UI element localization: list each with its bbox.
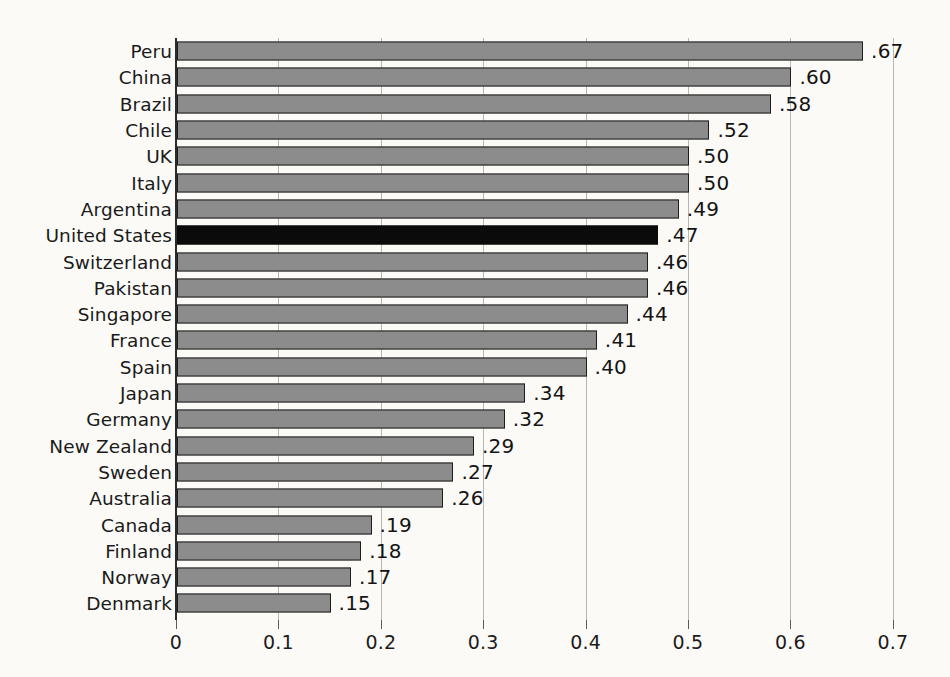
category-label: Sweden xyxy=(98,461,172,482)
bar-value-label: .58 xyxy=(779,92,811,116)
bar xyxy=(177,94,771,113)
bar-value-label: .29 xyxy=(482,434,514,458)
x-axis-tick xyxy=(893,620,894,629)
plot-area: 00.10.20.30.40.50.60.7Peru.67China.60Bra… xyxy=(0,0,950,677)
category-label: Japan xyxy=(120,383,172,404)
bar-value-label: .46 xyxy=(656,276,688,300)
bar-row: UK.50 xyxy=(0,143,950,169)
bar-row: Spain.40 xyxy=(0,354,950,380)
category-label: United States xyxy=(45,225,172,246)
bar xyxy=(177,331,597,350)
x-axis-tick-label: 0.2 xyxy=(365,631,396,653)
bar-row: China.60 xyxy=(0,64,950,90)
x-axis-tick xyxy=(483,620,484,629)
bar xyxy=(177,68,791,87)
bar-row: Norway.17 xyxy=(0,564,950,590)
bar-value-label: .19 xyxy=(380,513,412,537)
bar xyxy=(177,357,587,376)
bar-row: Germany.32 xyxy=(0,406,950,432)
bar xyxy=(177,173,689,192)
bar-value-label: .46 xyxy=(656,250,688,274)
bar-value-label: .67 xyxy=(871,39,903,63)
bar-row: Denmark.15 xyxy=(0,590,950,616)
bar-value-label: .60 xyxy=(799,65,831,89)
bar-value-label: .17 xyxy=(359,565,391,589)
bar-value-label: .26 xyxy=(451,486,483,510)
bar-row: Switzerland.46 xyxy=(0,248,950,274)
category-label: UK xyxy=(146,146,172,167)
x-axis-tick xyxy=(176,620,177,629)
category-label: Finland xyxy=(105,540,172,561)
bar-highlighted xyxy=(177,226,658,245)
bar-row: Canada.19 xyxy=(0,511,950,537)
category-label: Denmark xyxy=(86,593,172,614)
category-label: France xyxy=(110,330,172,351)
x-axis-tick xyxy=(586,620,587,629)
bar-value-label: .44 xyxy=(636,302,668,326)
category-label: Peru xyxy=(130,41,172,62)
x-axis-tick-label: 0.4 xyxy=(570,631,601,653)
bar xyxy=(177,121,709,140)
bar xyxy=(177,384,525,403)
bar-row: Sweden.27 xyxy=(0,459,950,485)
category-label: Singapore xyxy=(78,304,172,325)
bar xyxy=(177,199,679,218)
category-label: China xyxy=(119,67,172,88)
x-axis-tick-label: 0.5 xyxy=(673,631,704,653)
x-axis-tick-label: 0 xyxy=(170,631,182,653)
bar xyxy=(177,410,505,429)
bar xyxy=(177,594,331,613)
bar xyxy=(177,436,474,455)
bar xyxy=(177,541,361,560)
bar-value-label: .50 xyxy=(697,171,729,195)
bar-value-label: .49 xyxy=(687,197,719,221)
bar xyxy=(177,147,689,166)
category-label: Norway xyxy=(101,567,172,588)
bar-chart-figure: 00.10.20.30.40.50.60.7Peru.67China.60Bra… xyxy=(0,0,950,677)
bar xyxy=(177,42,863,61)
category-label: Canada xyxy=(101,514,172,535)
bar-row: Argentina.49 xyxy=(0,196,950,222)
x-axis-tick-label: 0.6 xyxy=(775,631,806,653)
bar-value-label: .32 xyxy=(513,407,545,431)
bar xyxy=(177,568,351,587)
bar-row: Italy.50 xyxy=(0,170,950,196)
x-axis-tick xyxy=(688,620,689,629)
category-label: Italy xyxy=(131,172,172,193)
x-axis-tick xyxy=(381,620,382,629)
category-label: New Zealand xyxy=(49,435,172,456)
bar-value-label: .15 xyxy=(339,591,371,615)
x-axis-tick-label: 0.3 xyxy=(468,631,499,653)
bar-row: Finland.18 xyxy=(0,538,950,564)
x-axis-tick xyxy=(278,620,279,629)
category-label: Switzerland xyxy=(63,251,172,272)
x-axis-tick xyxy=(790,620,791,629)
bar-row: France.41 xyxy=(0,327,950,353)
category-label: Germany xyxy=(86,409,172,430)
x-axis-tick-label: 0.1 xyxy=(263,631,294,653)
bar-row: Japan.34 xyxy=(0,380,950,406)
bar-value-label: .18 xyxy=(369,539,401,563)
bar-value-label: .52 xyxy=(717,118,749,142)
category-label: Argentina xyxy=(81,198,172,219)
bar xyxy=(177,278,648,297)
bar xyxy=(177,462,453,481)
category-label: Brazil xyxy=(120,93,172,114)
bar-row: New Zealand.29 xyxy=(0,433,950,459)
bar-row: Pakistan.46 xyxy=(0,275,950,301)
bar-value-label: .40 xyxy=(595,355,627,379)
bar-row: Brazil.58 xyxy=(0,91,950,117)
bar-row: Peru.67 xyxy=(0,38,950,64)
bar-value-label: .34 xyxy=(533,381,565,405)
bar-value-label: .50 xyxy=(697,144,729,168)
category-label: Spain xyxy=(120,356,172,377)
x-axis-tick-label: 0.7 xyxy=(877,631,908,653)
bar-row: Chile.52 xyxy=(0,117,950,143)
bar-value-label: .27 xyxy=(461,460,493,484)
category-label: Chile xyxy=(125,120,172,141)
bar xyxy=(177,489,443,508)
bar xyxy=(177,305,628,324)
bar xyxy=(177,252,648,271)
bar-row: Singapore.44 xyxy=(0,301,950,327)
bar-row: United States.47 xyxy=(0,222,950,248)
